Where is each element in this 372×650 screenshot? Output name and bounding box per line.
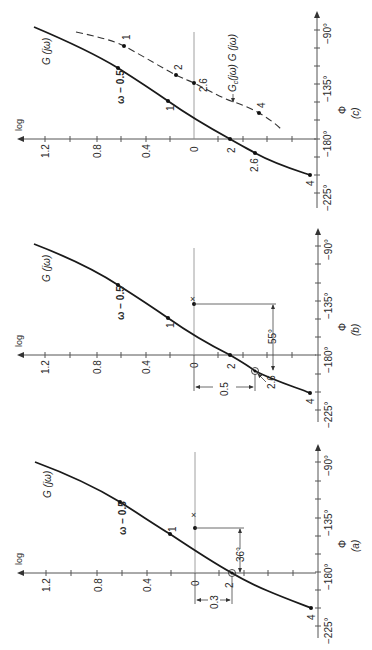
phase-tick-label: −225° — [322, 184, 333, 211]
point-label: 2 — [226, 147, 237, 153]
log-tick-label: 0.8 — [93, 578, 104, 592]
curve-label: G (jω) — [42, 471, 53, 498]
panel-a: log 1.2 0.8 0.4 0 −90° −135° −180° −225°… — [14, 447, 361, 644]
point-label: 1 — [121, 34, 132, 40]
log-tick-label: 0.8 — [92, 144, 103, 158]
point-label: 1 — [167, 526, 178, 532]
phase-tick-label: −180° — [322, 130, 333, 157]
phase-tick-label: −180° — [323, 346, 334, 373]
g-curve — [34, 244, 310, 393]
log-tick-label: 1.2 — [40, 144, 51, 158]
phase-margin-label: 55° — [267, 329, 278, 344]
phase-tick-label: −90° — [323, 239, 334, 260]
phase-axis-symbol: Φ — [337, 323, 348, 331]
point-label: 4 — [256, 102, 267, 108]
panel-caption: (a) — [350, 540, 361, 552]
omega-label: ω − 0.5 — [115, 286, 126, 320]
curve-label: G (jω) — [41, 38, 52, 65]
phase-tick-label: −135° — [323, 292, 334, 319]
phase-tick-label: −90° — [322, 23, 333, 44]
compensated-label: Gc(jω) G (jω) — [227, 34, 239, 92]
point-label: 4 — [306, 614, 317, 620]
point-label: 2.6 — [266, 375, 277, 389]
panel-caption: (c) — [350, 107, 361, 119]
point-label: 2 — [224, 582, 235, 588]
log-axis-label: log — [14, 335, 24, 347]
log-tick-label: 0 — [190, 580, 201, 586]
phase-axis-symbol: Φ — [337, 540, 348, 548]
panel-b: log 1.2 0.8 0.4 0 −90° −135° −180° −225°… — [14, 231, 361, 428]
compensated-curve — [76, 32, 282, 130]
point-label: 4 — [305, 398, 316, 404]
log-axis-label: log — [14, 553, 24, 565]
point-label: 2 — [226, 363, 237, 369]
gain-margin-label: 0.3 — [209, 595, 220, 609]
log-tick-label: 0.4 — [142, 578, 153, 592]
g-curve — [34, 27, 310, 175]
g-curve — [35, 462, 311, 608]
omega-label: ω − 0.5 — [115, 70, 126, 104]
log-tick-label: 0.4 — [141, 144, 152, 158]
phase-margin-label: 36° — [235, 547, 246, 562]
phase-tick-label: −135° — [323, 509, 334, 536]
phase-tick-label: −90° — [323, 455, 334, 476]
phase-tick-label: −135° — [322, 75, 333, 102]
point-label: 2.6 — [249, 158, 260, 172]
log-tick-label: 0.4 — [141, 360, 152, 374]
point-label: 1 — [165, 322, 176, 328]
panel-caption: (b) — [350, 324, 361, 336]
log-tick-label: 0 — [189, 146, 200, 152]
point-label: 4 — [305, 180, 316, 186]
log-axis-label: log — [14, 119, 24, 131]
phase-tick-label: −180° — [323, 563, 334, 590]
log-tick-label: 1.2 — [40, 360, 51, 374]
point-label: 2.6 — [198, 78, 209, 92]
phase-axis-symbol: Φ — [337, 106, 348, 114]
curve-label: G (jω) — [41, 255, 52, 282]
gain-margin-label: 0.5 — [219, 382, 230, 396]
nichols-chart-figure: log 1.2 0.8 0.4 0 −90° −135° −180° −225°… — [0, 0, 372, 650]
point-label: 1 — [165, 105, 176, 111]
panel-c: log 1.2 0.8 0.4 0 −90° −135° −180° −225°… — [14, 14, 361, 211]
point-label: 2 — [173, 64, 184, 70]
log-tick-label: 1.2 — [41, 578, 52, 592]
log-tick-label: 0 — [189, 362, 200, 368]
phase-tick-label: −225° — [323, 617, 334, 644]
critical-point-x: × — [191, 510, 196, 520]
phase-tick-label: −225° — [323, 401, 334, 428]
log-tick-label: 0.8 — [92, 360, 103, 374]
omega-label: ω − 0.5 — [117, 501, 128, 535]
